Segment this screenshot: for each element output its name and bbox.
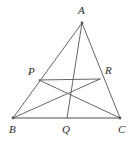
side-AB: [13, 23, 82, 118]
cevian-BR: [13, 79, 100, 118]
point-label-b: B: [9, 124, 16, 135]
cevian-AQ: [67, 23, 82, 118]
point-label-q: Q: [62, 124, 70, 135]
point-label-a: A: [78, 5, 85, 16]
geometry-canvas: [0, 0, 136, 143]
vertex-dot-c: [119, 117, 122, 120]
segment-PR: [39, 79, 100, 80]
point-label-p: P: [28, 66, 35, 77]
geometry-figure: A P R B Q C: [0, 0, 136, 143]
vertex-dot-b: [12, 117, 15, 120]
vertex-dot-a: [81, 22, 84, 25]
cevian-CP: [39, 80, 120, 118]
point-label-c: C: [118, 124, 125, 135]
side-AC: [82, 23, 120, 118]
point-label-r: R: [105, 65, 112, 76]
